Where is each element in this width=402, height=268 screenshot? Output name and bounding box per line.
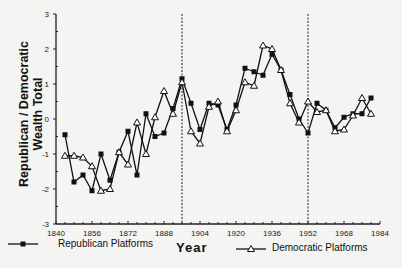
legend-democratic-label: Democratic Platforms bbox=[272, 242, 368, 253]
square-marker bbox=[99, 152, 104, 157]
square-marker bbox=[162, 131, 167, 136]
triangle-marker bbox=[134, 119, 141, 125]
triangle-marker bbox=[305, 98, 312, 104]
x-tick-label: 1984 bbox=[371, 229, 389, 238]
square-marker bbox=[153, 134, 158, 139]
square-marker bbox=[261, 73, 266, 78]
square-marker bbox=[243, 66, 248, 71]
square-marker bbox=[72, 180, 77, 185]
triangle-marker bbox=[359, 95, 366, 101]
square-marker bbox=[360, 111, 365, 116]
square-marker bbox=[135, 173, 140, 178]
series-republican bbox=[63, 52, 374, 194]
x-tick-label: 1920 bbox=[227, 229, 245, 238]
square-marker bbox=[189, 101, 194, 106]
triangle-marker bbox=[170, 110, 177, 116]
triangle-marker bbox=[341, 126, 348, 132]
y-axis-label-line2: Wealth Total bbox=[31, 41, 45, 187]
reference-lines bbox=[182, 14, 308, 224]
x-tick-label: 1952 bbox=[299, 229, 317, 238]
y-tick-label: -3 bbox=[42, 220, 50, 229]
square-marker bbox=[81, 173, 86, 178]
axis-ticks: 3210-1-2-3184018561872188819041920193619… bbox=[42, 10, 390, 238]
series-democratic bbox=[62, 42, 375, 193]
x-tick-label: 1936 bbox=[263, 229, 281, 238]
triangle-marker bbox=[161, 88, 168, 94]
triangle-marker bbox=[368, 110, 375, 116]
square-marker bbox=[306, 131, 311, 136]
square-marker bbox=[144, 111, 149, 116]
square-marker bbox=[126, 129, 131, 134]
square-marker bbox=[369, 96, 374, 101]
square-marker bbox=[342, 115, 347, 120]
square-marker bbox=[198, 127, 203, 132]
y-axis-label-line1: Republican / Democratic bbox=[17, 41, 31, 187]
x-axis-label: Year bbox=[176, 240, 207, 255]
x-tick-label: 1968 bbox=[335, 229, 353, 238]
series-line bbox=[65, 54, 371, 191]
triangle-marker bbox=[215, 98, 222, 104]
square-marker bbox=[90, 188, 95, 193]
legend-republican-label: Republican Platforms bbox=[58, 238, 153, 249]
triangle-marker bbox=[260, 42, 267, 48]
x-tick-label: 1888 bbox=[155, 229, 173, 238]
triangle-marker bbox=[233, 107, 240, 113]
series-line bbox=[65, 46, 371, 191]
triangle-marker bbox=[188, 128, 195, 134]
triangle-marker bbox=[152, 114, 159, 120]
y-axis-label: Republican / Democratic Wealth Total bbox=[6, 24, 56, 204]
y-tick-label: 3 bbox=[45, 10, 50, 19]
x-tick-label: 1856 bbox=[83, 229, 101, 238]
triangle-marker bbox=[143, 151, 150, 157]
x-tick-label: 1904 bbox=[191, 229, 209, 238]
triangle-marker bbox=[107, 186, 114, 192]
square-marker bbox=[63, 132, 68, 137]
line-chart: 3210-1-2-3184018561872188819041920193619… bbox=[0, 0, 402, 268]
square-marker bbox=[315, 101, 320, 106]
x-tick-label: 1840 bbox=[47, 229, 65, 238]
x-tick-label: 1872 bbox=[119, 229, 137, 238]
legend-republican-marker bbox=[21, 242, 26, 247]
square-marker bbox=[252, 69, 257, 74]
